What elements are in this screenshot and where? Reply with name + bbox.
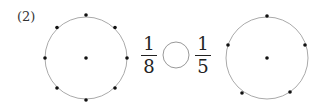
denominator: 8 xyxy=(141,57,157,77)
comparison-blank xyxy=(163,42,189,68)
fraction-one-fifth: 1 5 xyxy=(195,34,211,77)
numerator: 1 xyxy=(195,34,211,54)
left-circle xyxy=(43,13,129,102)
right-circle xyxy=(226,14,308,99)
numerator: 1 xyxy=(141,34,157,54)
denominator: 5 xyxy=(195,57,211,77)
figure xyxy=(0,0,322,108)
fraction-one-eighth: 1 8 xyxy=(141,34,157,77)
